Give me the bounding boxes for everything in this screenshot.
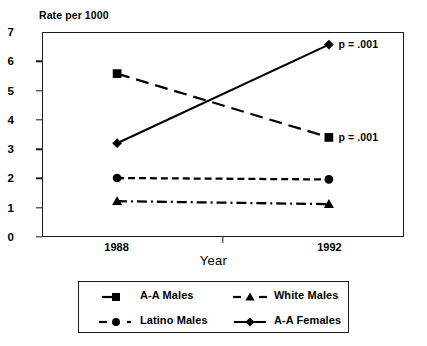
- legend-row: Latino MalesA-A Females: [79, 307, 348, 333]
- legend-key-triangle: [230, 291, 270, 303]
- legend-key-square: [96, 291, 136, 303]
- p-value-annotation: p = .001: [338, 131, 378, 143]
- legend-label: Latino Males: [140, 314, 224, 326]
- legend-label: A-A Males: [140, 289, 224, 301]
- p-value-annotation: p = .001: [338, 38, 378, 50]
- triangle-marker: [245, 292, 254, 300]
- diamond-marker: [245, 318, 254, 327]
- legend-label: White Males: [274, 289, 339, 301]
- circle-marker: [112, 318, 120, 326]
- legend-marker-icon: [230, 314, 270, 326]
- legend-row: A-A MalesWhite Males: [79, 282, 348, 308]
- legend-key-diamond: [230, 316, 270, 328]
- legend-entry[interactable]: A-A Females: [230, 314, 348, 326]
- legend-key-circle: [96, 316, 136, 328]
- legend-entry[interactable]: White Males: [230, 289, 348, 301]
- legend-marker-icon: [230, 289, 270, 301]
- legend-entry[interactable]: A-A Males: [79, 289, 230, 301]
- legend-label: A-A Females: [274, 314, 341, 326]
- legend-entry[interactable]: Latino Males: [79, 314, 230, 326]
- legend-marker-icon: [96, 289, 136, 301]
- legend: A-A MalesWhite MalesLatino MalesA-A Fema…: [78, 281, 349, 333]
- square-marker: [112, 293, 120, 301]
- x-axis-title: Year: [0, 253, 427, 268]
- legend-marker-icon: [96, 314, 136, 326]
- chart-figure: Rate per 1000 01234567 19881992 p = .001…: [0, 0, 427, 346]
